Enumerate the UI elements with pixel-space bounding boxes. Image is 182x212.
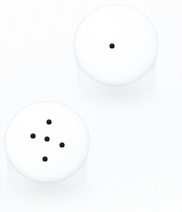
upper-right-die-face: [74, 5, 158, 85]
pip-center: [110, 44, 115, 49]
pip-bottom: [43, 157, 48, 162]
pip-top: [47, 120, 52, 125]
pip-left: [31, 134, 36, 139]
pip-center: [45, 137, 50, 142]
pip-right: [60, 143, 65, 148]
lower-left-die-face: [5, 102, 89, 182]
dice-scene: [0, 0, 182, 212]
